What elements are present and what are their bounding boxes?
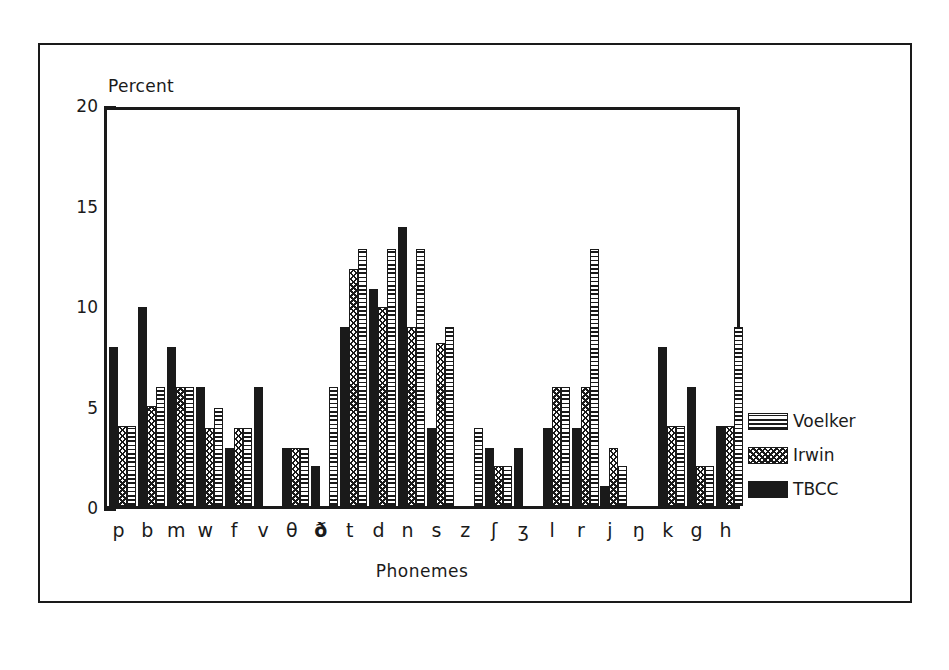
y-axis-title: Percent [108, 76, 174, 96]
x-axis-tick-label: z [450, 521, 480, 540]
x-axis-tick-label: d [364, 521, 394, 540]
bar-group [194, 110, 223, 506]
x-axis-title: Phonemes [104, 561, 740, 581]
bar-irwin [667, 426, 676, 506]
x-axis-tick-label: ʃ [479, 521, 509, 540]
bar-group [714, 110, 743, 506]
bar-tbcc [167, 347, 176, 506]
bar-voelker [676, 426, 685, 506]
bar-voelker [618, 466, 627, 506]
legend-item-label: Irwin [793, 447, 834, 464]
bar-tbcc [109, 347, 118, 506]
legend-item[interactable]: Irwin [748, 438, 898, 472]
bars-layer [107, 110, 737, 506]
bar-group [627, 110, 656, 506]
bar-tbcc [600, 486, 609, 506]
legend-item[interactable]: TBCC [748, 472, 898, 506]
x-axis-tick-label: f [219, 521, 249, 540]
bar-group [483, 110, 512, 506]
bar-tbcc [282, 448, 291, 506]
x-axis-tick-labels: pbmwfvθðtdnszʃʒlrjŋkgh [104, 521, 740, 551]
bar-group [252, 110, 281, 506]
bar-tbcc [543, 428, 552, 506]
bar-voelker [156, 387, 165, 506]
x-axis-tick-label: g [682, 521, 712, 540]
x-axis-tick-label: k [653, 521, 683, 540]
x-axis-tick-label: b [132, 521, 162, 540]
legend: VoelkerIrwinTBCC [748, 404, 898, 506]
bar-voelker [734, 327, 743, 506]
bar-group [136, 110, 165, 506]
bar-group [656, 110, 685, 506]
x-axis-tick-label: s [421, 521, 451, 540]
plot-area [104, 107, 740, 509]
bar-voelker [300, 448, 309, 506]
bar-irwin [118, 426, 127, 506]
bar-irwin [494, 466, 503, 506]
bar-tbcc [196, 387, 205, 506]
bar-group [338, 110, 367, 506]
x-axis-tick-label: m [161, 521, 191, 540]
bar-group [396, 110, 425, 506]
x-axis-tick-label: h [711, 521, 741, 540]
bar-group [454, 110, 483, 506]
x-axis-tick-label: w [190, 521, 220, 540]
x-axis-tick-label: r [566, 521, 596, 540]
bar-tbcc [254, 387, 263, 506]
bar-voelker [474, 428, 483, 506]
x-axis-tick-label: l [537, 521, 567, 540]
bar-irwin [147, 406, 156, 507]
bar-group [570, 110, 599, 506]
y-axis-tick-label: 15 [62, 199, 98, 216]
bar-tbcc [311, 466, 320, 506]
bar-group [598, 110, 627, 506]
x-axis-tick-label: ŋ [624, 521, 654, 540]
bar-tbcc [716, 426, 725, 506]
bar-irwin [581, 387, 590, 506]
bar-irwin [436, 343, 445, 506]
bar-irwin [291, 448, 300, 506]
bar-tbcc [687, 387, 696, 506]
legend-item[interactable]: Voelker [748, 404, 898, 438]
legend-swatch-icon [748, 481, 788, 498]
bar-tbcc [514, 448, 523, 506]
bar-tbcc [658, 347, 667, 506]
x-axis-tick-label: t [335, 521, 365, 540]
legend-item-label: Voelker [793, 413, 856, 430]
bar-voelker [185, 387, 194, 506]
bar-irwin [205, 428, 214, 506]
x-axis-tick-label: n [393, 521, 423, 540]
x-axis-tick-label: ʒ [508, 521, 538, 540]
bar-voelker [387, 249, 396, 506]
bar-voelker [243, 428, 252, 506]
bar-group [223, 110, 252, 506]
bar-voelker [214, 408, 223, 506]
bar-irwin [407, 327, 416, 506]
bar-irwin [234, 428, 243, 506]
bar-group [425, 110, 454, 506]
x-axis-tick-label: v [248, 521, 278, 540]
legend-item-label: TBCC [793, 481, 839, 498]
bar-voelker [590, 249, 599, 506]
bar-irwin [176, 387, 185, 506]
bar-irwin [696, 466, 705, 506]
bar-group [685, 110, 714, 506]
y-axis-tick-labels: 05101520 [58, 0, 98, 670]
bar-tbcc [340, 327, 349, 506]
bar-voelker [503, 466, 512, 506]
bar-voelker [561, 387, 570, 506]
x-axis-tick-label: p [103, 521, 133, 540]
y-axis-tick-label: 5 [62, 400, 98, 417]
legend-swatch-icon [748, 447, 788, 464]
figure-root: Percent 05101520 pbmwfvθðtdnszʃʒlrjŋkgh … [0, 0, 949, 670]
bar-irwin [725, 426, 734, 506]
bar-tbcc [427, 428, 436, 506]
bar-tbcc [225, 448, 234, 506]
x-axis-tick-label: ð [306, 521, 336, 540]
bar-irwin [552, 387, 561, 506]
x-axis-tick-label: θ [277, 521, 307, 540]
bar-voelker [705, 466, 714, 506]
bar-irwin [609, 448, 618, 506]
bar-group [541, 110, 570, 506]
bar-group [512, 110, 541, 506]
